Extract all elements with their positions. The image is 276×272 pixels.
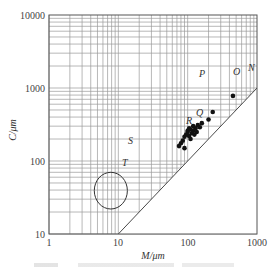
data-point xyxy=(206,117,211,122)
y-tick-10: 10 xyxy=(35,229,45,240)
x-tick-10: 10 xyxy=(113,237,123,248)
region-label-o: O xyxy=(233,66,240,77)
data-point xyxy=(194,130,199,135)
figure-caption xyxy=(0,259,276,271)
region-label-r: R xyxy=(185,115,192,126)
y-tick-1000: 1000 xyxy=(25,83,45,94)
region-t-ellipse xyxy=(94,172,127,209)
region-label-t: T xyxy=(122,157,129,168)
data-point xyxy=(182,146,187,151)
region-label-n: N xyxy=(247,62,256,73)
data-point xyxy=(187,126,192,131)
x-tick-100: 100 xyxy=(181,237,196,248)
data-point xyxy=(182,134,187,139)
y-tick-10000: 10000 xyxy=(20,10,45,21)
data-point xyxy=(198,125,203,130)
data-point xyxy=(177,144,182,149)
data-point xyxy=(188,137,193,142)
data-point xyxy=(231,94,236,99)
data-point xyxy=(200,121,205,126)
y-tick-100: 100 xyxy=(30,156,45,167)
region-label-s: S xyxy=(128,135,133,146)
x-tick-1: 1 xyxy=(47,237,52,248)
x-tick-1000: 1000 xyxy=(247,237,267,248)
data-point xyxy=(210,110,215,115)
region-label-q: Q xyxy=(196,107,204,118)
region-label-p: P xyxy=(198,68,205,79)
y-axis-label: C/μm xyxy=(7,119,18,141)
cm-diagram-chart: 1 10 100 1000 10000 1000 100 10 M/μm C/μ… xyxy=(0,0,276,272)
